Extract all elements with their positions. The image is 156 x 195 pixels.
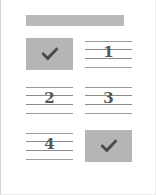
ruled-cell-3-digit: 3 [85, 91, 132, 106]
ruled-cell-1-digit: 1 [85, 45, 132, 60]
header-bar [26, 15, 124, 26]
rule-line [26, 113, 73, 114]
rule-line [26, 133, 73, 134]
rule-line [26, 87, 73, 88]
cell-grid: ✓ 1 2 3 [26, 38, 132, 162]
check-icon [40, 46, 60, 62]
ruled-cell-2-digit: 2 [26, 91, 73, 106]
rule-line [26, 159, 73, 160]
ruled-cell-3[interactable]: 3 [85, 84, 132, 116]
rule-line [85, 41, 132, 42]
check-icon [99, 138, 119, 154]
ruled-cell-1[interactable]: 1 [85, 38, 132, 70]
ruled-cell-2[interactable]: 2 [26, 84, 73, 116]
card-container: ✓ 1 2 3 [0, 0, 156, 195]
checkbox-cell-1[interactable]: ✓ [26, 38, 73, 70]
ruled-cell-4[interactable]: 4 [26, 130, 73, 162]
rule-line [85, 87, 132, 88]
rule-line [85, 113, 132, 114]
ruled-cell-4-digit: 4 [26, 137, 73, 152]
checkbox-cell-2[interactable]: ✓ [85, 130, 132, 162]
rule-line [85, 67, 132, 68]
